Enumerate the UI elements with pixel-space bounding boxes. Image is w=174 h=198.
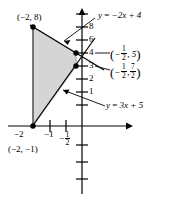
vertex-dot-neg2-8 [30,24,35,29]
minus-sign: − [114,68,120,77]
vertex-dot-neghalf-3point5 [73,63,78,68]
fraction-denominator: 2 [121,71,127,80]
fraction-numerator: 1 [65,131,71,139]
fraction-denominator: 2 [121,53,127,62]
point-label-neghalf-5: (−12, 5) [110,45,141,63]
point-label-neg2-neg1: (−2, −1) [8,145,38,154]
fraction-numerator: 7 [130,63,136,71]
shaded-solution-region [33,27,76,126]
y-tick-label-8: 8 [89,22,94,31]
equation-rhs: 3x + 5 [120,100,144,110]
fraction-numerator: 1 [121,45,127,53]
x-axis-arrow [126,123,133,130]
y-tick-label-3: 3 [89,61,94,70]
close-paren: ) [136,65,140,80]
x-tick-label-neg2: −2 [14,130,24,139]
fraction-one-half: 12 [121,45,127,62]
point-y-value: , 5 [127,50,136,59]
equation-lhs: y [106,100,110,110]
fraction-denominator: 2 [130,71,136,80]
y-tick-label-6: 6 [89,35,94,44]
point-label-neg2-8: (−2, 8) [17,13,42,22]
close-paren: ) [136,47,140,62]
equation-lhs: y [98,10,102,20]
y-tick-label-4: 4 [89,48,94,57]
graph-canvas [0,0,174,198]
point-label-neghalf-seven-halves: (−12,72) [110,63,141,81]
y-tick-label-1: 1 [89,87,94,96]
minus-sign: − [59,133,64,143]
coordinate-graph-figure: 8 6 4 3 2 1 −2 −1 −12 (−2, 8) (−2, −1) (… [0,0,174,198]
equals-sign: = [112,100,117,110]
equation-label-line-2: y = 3x + 5 [106,101,143,110]
fraction-one-half: 12 [65,131,71,148]
fraction-denominator: 2 [65,138,71,147]
y-tick-label-2: 2 [89,74,94,83]
vertex-dot-neghalf-5 [73,50,78,55]
x-tick-label-neg-one-half: −12 [59,131,71,148]
equation-label-line-1: y = −2x + 4 [98,11,141,20]
x-tick-label-neg1: −1 [44,130,54,139]
minus-sign: − [114,50,120,59]
fraction-seven-halves: 72 [130,63,136,80]
fraction-one-half: 12 [121,63,127,80]
vertex-dot-neg2-neg1 [30,123,35,128]
fraction-numerator: 1 [121,63,127,71]
equals-sign: = [104,10,109,20]
equation-rhs: −2x + 4 [112,10,142,20]
